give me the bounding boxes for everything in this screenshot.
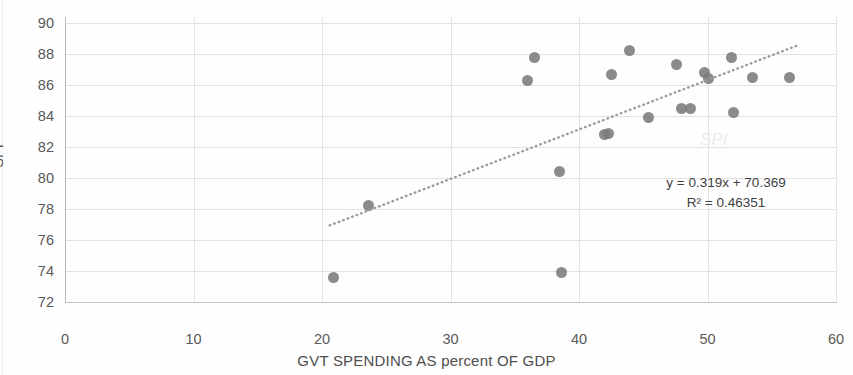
x-tick-label: 40 [559, 332, 599, 347]
x-tick-label: 10 [174, 332, 214, 347]
watermark: SPI [700, 130, 727, 150]
x-tick-label: 30 [431, 332, 471, 347]
scatter-chart: 72747678808284868890 0102030405060 SPI G… [0, 0, 853, 375]
trendline-equation-box: y = 0.319x + 70.369 R² = 0.46351 [636, 173, 816, 212]
x-tick-label: 20 [302, 332, 342, 347]
y-axis-title: SPI [0, 144, 6, 167]
r-squared-label: R² = 0.46351 [636, 193, 816, 213]
equation-label: y = 0.319x + 70.369 [636, 173, 816, 193]
x-tick-label: 0 [45, 332, 85, 347]
x-axis-title: GVT SPENDING AS percent OF GDP [0, 352, 853, 369]
x-tick-label: 50 [688, 332, 728, 347]
x-tick-label: 60 [816, 332, 853, 347]
